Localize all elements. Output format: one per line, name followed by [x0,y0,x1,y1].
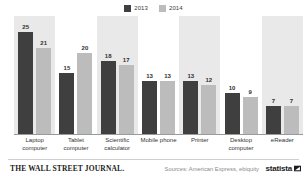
legend-swatch-2013 [124,5,131,12]
bar [119,65,134,134]
bar-value-label: 10 [229,85,236,92]
legend-entry-2013: 2013 [124,5,148,12]
bar-column: 15 [59,16,74,134]
bar [201,85,216,134]
legend-entry-2014: 2014 [159,5,183,12]
bar-value-label: 18 [105,53,112,60]
plot-area: 2521152018171313131210977 [14,16,303,134]
statista-wordmark: statista [266,164,292,173]
bar-column: 20 [77,16,92,134]
bar-value-label: 13 [164,73,171,80]
category-label: Scientific calculator [97,137,138,155]
bar [77,53,92,135]
x-axis-line [14,134,303,135]
bar-group: 1520 [55,16,96,134]
bar [36,48,51,134]
bar-value-label: 20 [82,45,89,52]
category-label: Laptop computer [14,137,55,155]
category-label: Desktop computer [220,137,261,155]
category-label: Printer [179,137,220,155]
bar [160,81,175,134]
bar [101,61,116,134]
chart-footer: THE WALL STREET JOURNAL. Sources: Americ… [0,161,307,179]
source-note: Sources: American Express, ebiquity [165,166,259,172]
flag-mark-icon [294,165,301,172]
category-label: eReader [262,137,303,155]
bar-column: 21 [36,16,51,134]
bar [225,93,240,134]
bar-value-label: 13 [187,73,194,80]
bar [183,81,198,134]
bar-group: 1817 [97,16,138,134]
wsj-logo: THE WALL STREET JOURNAL. [10,164,124,173]
bar-value-label: 21 [40,40,47,47]
bar-value-label: 15 [64,65,71,72]
bar-column: 17 [119,16,134,134]
category-label: Mobile phone [138,137,179,155]
bar-value-label: 7 [272,98,275,105]
bar-group: 109 [220,16,261,134]
bar-column: 18 [101,16,116,134]
bar [142,81,157,134]
x-axis-tick-labels: Laptop computerTablet computerScientific… [14,137,303,155]
bar-group: 1312 [179,16,220,134]
bar-group: 1313 [138,16,179,134]
bar-column: 9 [243,16,258,134]
category-label: Tablet computer [55,137,96,155]
bar-column: 13 [183,16,198,134]
chart-figure: 2013 2014 2521152018171313131210977 Lapt… [0,0,307,179]
bar-value-label: 17 [123,57,130,64]
statista-logo: statista [266,164,301,173]
bar [18,32,33,134]
bar-group: 77 [262,16,303,134]
chart-legend: 2013 2014 [0,2,307,14]
bar-value-label: 25 [22,24,29,31]
bar-value-label: 12 [205,77,212,84]
bar [243,97,258,134]
bar-column: 7 [284,16,299,134]
legend-label-2013: 2013 [134,5,148,12]
bar [284,106,299,135]
bar-value-label: 9 [248,89,251,96]
bar-column: 25 [18,16,33,134]
footer-divider [8,159,299,160]
bar-column: 7 [266,16,281,134]
bar-column: 12 [201,16,216,134]
bar [266,106,281,135]
legend-label-2014: 2014 [169,5,183,12]
legend-swatch-2014 [159,5,166,12]
bar-column: 13 [142,16,157,134]
bar-column: 10 [225,16,240,134]
bar-group: 2521 [14,16,55,134]
bar-column: 13 [160,16,175,134]
bar-value-label: 7 [290,98,293,105]
bar [59,73,74,134]
bar-value-label: 13 [146,73,153,80]
